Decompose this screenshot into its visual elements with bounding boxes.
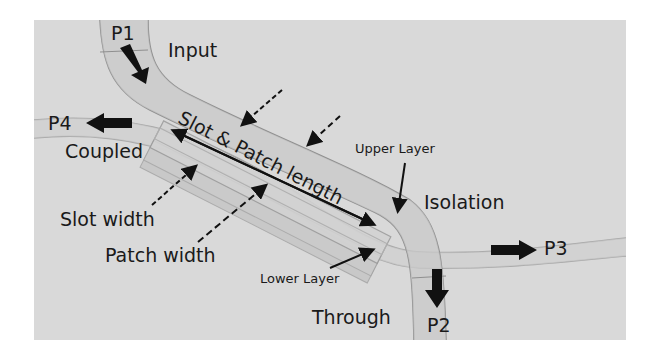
port-label-p1: P1 xyxy=(111,24,135,43)
label-coupled: Coupled xyxy=(65,142,143,161)
label-through: Through xyxy=(312,308,391,327)
label-patch-width: Patch width xyxy=(105,246,216,265)
label-slot-width: Slot width xyxy=(60,210,155,229)
label-input: Input xyxy=(168,41,217,60)
coupler-diagram: P1 P2 P3 P4 Input Coupled Isolation Thro… xyxy=(0,0,656,359)
label-lower-layer: Lower Layer xyxy=(260,272,339,285)
port-label-p2: P2 xyxy=(427,316,451,335)
port-label-p3: P3 xyxy=(544,239,568,258)
port-label-p4: P4 xyxy=(48,114,72,133)
label-upper-layer: Upper Layer xyxy=(355,142,435,155)
label-isolation: Isolation xyxy=(424,193,504,212)
